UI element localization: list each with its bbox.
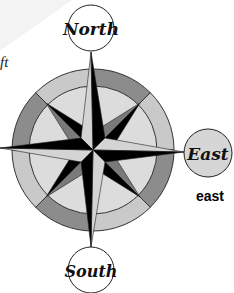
east-label-button[interactable]: East <box>184 129 232 177</box>
east-label: East <box>186 144 229 164</box>
north-label-button[interactable]: North <box>62 5 119 51</box>
north-label: North <box>62 19 119 39</box>
south-label: South <box>65 262 118 281</box>
south-label-button[interactable]: South <box>65 247 118 293</box>
answer-label: east <box>196 188 224 204</box>
cardinal-star-points <box>0 52 184 247</box>
compass-rose: North East South <box>0 0 234 293</box>
